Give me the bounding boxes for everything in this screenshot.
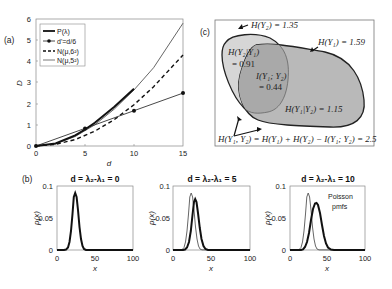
svg-text:x: x bbox=[208, 264, 214, 273]
svg-text:0.05: 0.05 bbox=[155, 214, 170, 223]
svg-text:3: 3 bbox=[27, 78, 31, 87]
svg-text:0: 0 bbox=[49, 246, 53, 255]
label-hy1-given-y2: H(Y₁|Y₂) = 1.15 bbox=[284, 104, 343, 114]
plot-b2: d = λ₂-λ₁ = 5 0.1 0.05 0 0 50 100 x p(x) bbox=[147, 174, 256, 273]
svg-text:6: 6 bbox=[27, 15, 31, 24]
panel-b-label: (b) bbox=[22, 174, 33, 184]
svg-text:100: 100 bbox=[359, 254, 372, 263]
series-dprime bbox=[36, 93, 183, 146]
panel-c-label: (c) bbox=[200, 27, 210, 37]
svg-text:100: 100 bbox=[244, 254, 257, 263]
svg-text:d = λ₂-λ₁ = 0: d = λ₂-λ₁ = 0 bbox=[71, 174, 120, 184]
svg-text:0: 0 bbox=[55, 254, 59, 263]
svg-text:d = λ₂-λ₁ = 10: d = λ₂-λ₁ = 10 bbox=[301, 174, 355, 184]
plot-a-legend: P(λ) d'=d/6 N(μ,6²) N(μ,5²) bbox=[40, 24, 85, 66]
svg-text:0.1: 0.1 bbox=[43, 182, 53, 191]
plot-b3: d = λ₂-λ₁ = 10 0.1 0.05 0 0 50 100 x p(x… bbox=[263, 174, 371, 273]
svg-text:x: x bbox=[324, 264, 330, 273]
figure: (a) 0 1 2 3 4 5 6 0 5 10 15 d D bbox=[0, 0, 392, 289]
svg-text:0: 0 bbox=[288, 254, 292, 263]
plot-a-xticks: 0 5 10 15 bbox=[34, 149, 187, 158]
plot-b1: d = λ₂-λ₁ = 0 0.1 0.05 0 0 50 100 x p(x) bbox=[32, 174, 139, 273]
svg-text:50: 50 bbox=[323, 254, 331, 263]
svg-text:0: 0 bbox=[27, 142, 31, 151]
svg-text:0: 0 bbox=[34, 149, 38, 158]
svg-text:p(x): p(x) bbox=[32, 211, 41, 226]
svg-text:0.05: 0.05 bbox=[271, 214, 286, 223]
svg-text:50: 50 bbox=[207, 254, 215, 263]
panel-a-label: (a) bbox=[4, 35, 15, 45]
label-hy2: H(Y₂) = 1.35 bbox=[250, 20, 298, 30]
label-hy2-given-y1-value: = 0.91 bbox=[232, 59, 255, 69]
plot-a-ylabel: D bbox=[15, 80, 24, 86]
svg-text:5: 5 bbox=[83, 149, 87, 158]
svg-text:50: 50 bbox=[91, 254, 99, 263]
svg-text:P(λ): P(λ) bbox=[57, 28, 70, 36]
svg-text:0.1: 0.1 bbox=[276, 182, 286, 191]
svg-text:d = λ₂-λ₁ = 5: d = λ₂-λ₁ = 5 bbox=[188, 174, 237, 184]
label-hy2-given-y1: H(Y₂|Y₁) bbox=[227, 47, 259, 57]
label-mi-value: = 0.44 bbox=[259, 82, 283, 92]
plot-a-xlabel: d bbox=[107, 159, 112, 168]
svg-text:1: 1 bbox=[27, 121, 31, 130]
svg-text:15: 15 bbox=[179, 149, 187, 158]
annotation-pmfs: pmfs bbox=[332, 203, 348, 211]
label-mi: I(Y₁; Y₂) bbox=[255, 71, 287, 81]
svg-text:x: x bbox=[92, 264, 98, 273]
svg-text:5: 5 bbox=[27, 36, 31, 45]
series-normal-6 bbox=[36, 55, 183, 146]
svg-text:0.1: 0.1 bbox=[160, 182, 170, 191]
svg-text:p(x): p(x) bbox=[263, 211, 272, 226]
svg-text:0: 0 bbox=[166, 246, 170, 255]
svg-text:d'=d/6: d'=d/6 bbox=[57, 38, 76, 45]
plot-a-yticks: 0 1 2 3 4 5 6 bbox=[27, 15, 31, 151]
svg-text:0: 0 bbox=[171, 254, 175, 263]
svg-text:N(μ,5²): N(μ,5²) bbox=[57, 57, 79, 65]
svg-text:N(μ,6²): N(μ,6²) bbox=[57, 48, 79, 56]
svg-text:100: 100 bbox=[127, 254, 140, 263]
svg-text:p(x): p(x) bbox=[147, 211, 156, 226]
annotation-poisson: Poisson bbox=[328, 193, 353, 200]
svg-text:0: 0 bbox=[282, 246, 286, 255]
svg-text:10: 10 bbox=[130, 149, 138, 158]
label-joint-entropy: H(Y₁, Y₂) = H(Y₁) + H(Y₂) − I(Y₁; Y₂) = … bbox=[217, 134, 377, 144]
svg-text:2: 2 bbox=[27, 100, 31, 109]
label-hy1: H(Y₁) = 1.59 bbox=[317, 37, 365, 47]
svg-text:4: 4 bbox=[27, 57, 31, 66]
series-poisson bbox=[36, 89, 134, 146]
